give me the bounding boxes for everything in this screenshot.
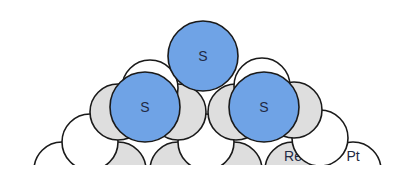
atom-label: S bbox=[198, 48, 207, 64]
sulfur-adsorption-diagram: RePtSSS bbox=[0, 0, 405, 182]
atom-label: S bbox=[140, 99, 149, 115]
atom-s: S bbox=[168, 21, 238, 91]
atom-label: S bbox=[259, 99, 268, 115]
atom-s: S bbox=[229, 72, 299, 142]
atom-layer: RePtSSS bbox=[34, 21, 381, 182]
atom-label: Pt bbox=[346, 148, 359, 164]
atom-s: S bbox=[110, 72, 180, 142]
